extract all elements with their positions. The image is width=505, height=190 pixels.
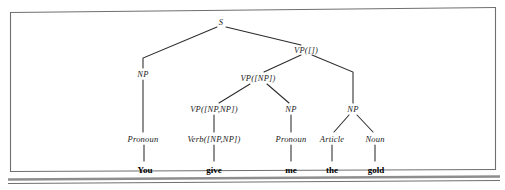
terminal-word-gold: gold (368, 166, 385, 175)
node-pronoun-object: Pronoun (276, 135, 307, 144)
edge-s-np1 (143, 27, 217, 68)
edge-np3-article (334, 115, 349, 132)
edge-vp1-np2 (267, 84, 289, 103)
terminal-word-you: You (137, 166, 152, 175)
node-vp-np-np: VP([NP,NP]) (190, 105, 238, 114)
edge-vp0-vp1 (264, 55, 301, 72)
figure-border (10, 8, 496, 173)
node-article: Article (320, 135, 345, 144)
node-np-subject: NP (137, 70, 148, 79)
terminal-word-the: the (326, 166, 338, 175)
node-np-object-direct: NP (347, 105, 358, 114)
node-vp-empty: VP([]) (294, 46, 318, 55)
node-pronoun-subject: Pronoun (128, 135, 159, 144)
edge-s-vp0 (226, 27, 301, 45)
parse-tree-diagram (0, 0, 505, 190)
node-s: S (219, 18, 223, 27)
terminal-word-me: me (285, 166, 297, 175)
bottom-rule (8, 177, 500, 184)
edge-vp1-vp2 (219, 84, 250, 103)
edge-np3-noun (357, 115, 373, 132)
node-verb: Verb([NP,NP]) (187, 135, 240, 144)
node-np-object-indirect: NP (285, 105, 296, 114)
figure-frame: S NP VP([]) VP([NP]) NP VP([NP,NP]) NP P… (0, 0, 505, 190)
node-noun: Noun (365, 135, 384, 144)
terminal-word-give: give (206, 166, 222, 175)
edge-vp0-np3 (312, 55, 353, 103)
node-vp-np: VP([NP]) (240, 74, 275, 83)
